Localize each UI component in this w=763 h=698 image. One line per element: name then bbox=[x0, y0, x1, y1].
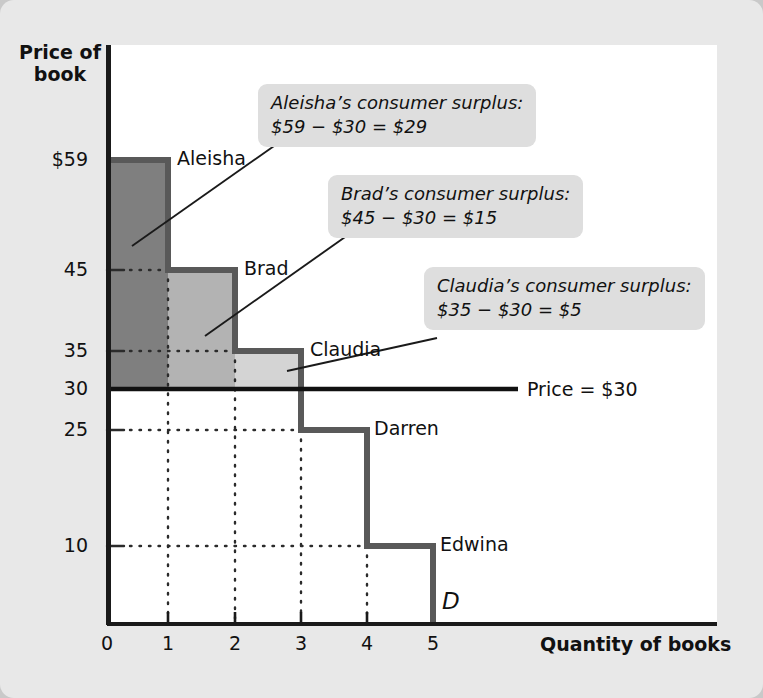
figure-panel: Price of book Quantity of books $59 45 3… bbox=[0, 0, 763, 698]
y-axis-title: Price of book bbox=[14, 42, 106, 86]
y-axis-title-line1: Price of bbox=[19, 41, 101, 63]
x-tick-label-4: 4 bbox=[347, 632, 387, 654]
x-tick-label-1: 1 bbox=[148, 632, 188, 654]
callout-brad-surplus: Brad’s consumer surplus: $45 − $30 = $15 bbox=[328, 175, 583, 238]
label-demand-curve: D bbox=[442, 588, 460, 614]
callout-aleisha-line1: Aleisha’s consumer surplus: bbox=[271, 91, 523, 115]
callout-brad-line2: $45 − $30 = $15 bbox=[341, 206, 570, 230]
callout-brad-line1: Brad’s consumer surplus: bbox=[341, 182, 570, 206]
y-tick-label-30: 30 bbox=[18, 377, 88, 399]
aleisha-surplus-area bbox=[109, 160, 168, 389]
callout-aleisha-surplus: Aleisha’s consumer surplus: $59 − $30 = … bbox=[258, 84, 536, 147]
label-darren: Darren bbox=[374, 417, 439, 439]
label-claudia: Claudia bbox=[310, 338, 381, 360]
callout-claudia-line2: $35 − $30 = $5 bbox=[437, 298, 692, 322]
label-brad: Brad bbox=[244, 257, 289, 279]
x-tick-label-0: 0 bbox=[87, 632, 127, 654]
x-tick-label-5: 5 bbox=[413, 632, 453, 654]
callout-claudia-surplus: Claudia’s consumer surplus: $35 − $30 = … bbox=[424, 267, 705, 330]
callout-claudia-line1: Claudia’s consumer surplus: bbox=[437, 274, 692, 298]
y-tick-label-10: 10 bbox=[18, 534, 88, 556]
callout-aleisha-line2: $59 − $30 = $29 bbox=[271, 115, 523, 139]
x-tick-label-3: 3 bbox=[281, 632, 321, 654]
label-edwina: Edwina bbox=[440, 533, 509, 555]
label-aleisha: Aleisha bbox=[177, 147, 246, 169]
y-axis-title-line2: book bbox=[34, 63, 86, 85]
y-tick-label-35: 35 bbox=[18, 339, 88, 361]
x-axis-title: Quantity of books bbox=[540, 634, 731, 656]
y-tick-label-59: $59 bbox=[18, 148, 88, 170]
y-tick-label-45: 45 bbox=[18, 258, 88, 280]
x-tick-label-2: 2 bbox=[215, 632, 255, 654]
brad-surplus-area bbox=[168, 270, 235, 389]
label-price-line: Price = $30 bbox=[527, 378, 638, 400]
y-tick-label-25: 25 bbox=[18, 418, 88, 440]
